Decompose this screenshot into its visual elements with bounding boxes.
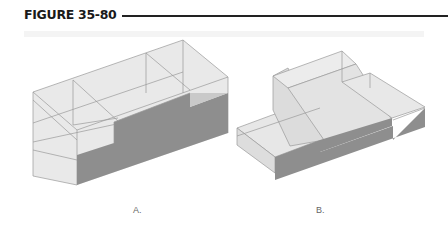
panel-b-drawing [0,0,448,233]
caption-a: A. [133,205,142,215]
caption-b: B. [316,205,325,215]
